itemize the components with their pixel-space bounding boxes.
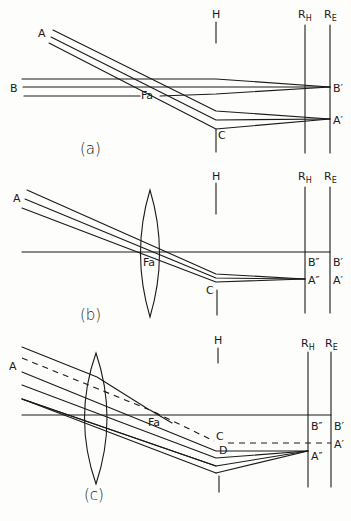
ray-diagram-svg: A B Fa H RH RE B′ A′ C (a) A Fa H RH RE … xyxy=(0,0,351,521)
panel-caption-b: (b) xyxy=(80,306,101,324)
label-b-double-prime: B″ xyxy=(308,256,320,269)
label-d: D xyxy=(219,444,227,457)
panel-caption-c: (c) xyxy=(84,486,104,504)
label-re: RE xyxy=(324,170,337,185)
label-a-prime: A′ xyxy=(333,114,344,127)
ray-3 xyxy=(22,399,308,466)
label-h: H xyxy=(212,170,220,183)
ray-a-middle xyxy=(25,199,305,279)
optics-diagram-figure: A B Fa H RH RE B′ A′ C (a) A Fa H RH RE … xyxy=(0,0,351,521)
ray-3-seg xyxy=(22,399,216,466)
label-a-prime: A′ xyxy=(334,438,345,451)
panel-c: A Fa H RH RE B″ B′ A″ A′ C D (c) xyxy=(9,334,345,504)
ray-a-upper xyxy=(53,30,330,119)
panel-b: A Fa H RH RE B″ B′ A″ A′ C (b) xyxy=(13,170,344,324)
label-fa: Fa xyxy=(148,416,160,429)
label-re: RE xyxy=(324,8,337,23)
label-b-double-prime: B″ xyxy=(311,420,323,433)
label-b-prime: B′ xyxy=(333,256,344,269)
label-h: H xyxy=(214,334,222,347)
label-rh: RH xyxy=(298,170,312,185)
ray-b-upper xyxy=(22,79,330,87)
ray-a-lower xyxy=(22,208,305,282)
label-c: C xyxy=(216,430,224,443)
ray-dashed-to-c xyxy=(22,358,214,441)
label-h: H xyxy=(212,8,220,21)
label-a: A xyxy=(9,360,17,373)
label-a: A xyxy=(13,192,21,205)
ray-4-incoming xyxy=(22,399,216,473)
ray-2 xyxy=(22,385,308,458)
label-a-prime: A′ xyxy=(333,274,344,287)
panel-caption-a: (a) xyxy=(80,140,101,158)
label-b-prime: B′ xyxy=(334,420,345,433)
label-c: C xyxy=(206,284,214,297)
label-rh: RH xyxy=(301,337,315,352)
label-fa: Fa xyxy=(143,256,155,269)
label-b: B xyxy=(10,82,18,95)
label-re: RE xyxy=(325,337,338,352)
label-b-prime: B′ xyxy=(333,82,344,95)
label-a: A xyxy=(38,27,46,40)
label-fa: Fa xyxy=(141,89,153,102)
ray-a-upper xyxy=(27,190,305,279)
label-c: C xyxy=(218,129,226,142)
panel-a: A B Fa H RH RE B′ A′ C (a) xyxy=(10,8,344,158)
lens xyxy=(85,353,108,484)
label-rh: RH xyxy=(298,8,312,23)
label-a-double-prime: A″ xyxy=(311,450,323,463)
label-a-double-prime: A″ xyxy=(308,274,320,287)
